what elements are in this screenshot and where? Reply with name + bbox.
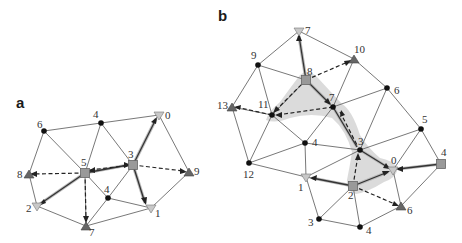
node-dot-icon [255,62,261,68]
node-label: 8 [17,168,23,180]
node-label: 6 [37,118,43,130]
node-square-icon [437,160,446,169]
node-dot-icon [302,140,308,146]
node-triangle-up-icon [349,55,359,63]
node-dot-icon [330,104,336,110]
node-label: 3 [308,216,314,228]
panel-b-mesh-edges [232,31,441,227]
node-label: 4 [312,136,318,148]
node-label: 2 [26,202,32,214]
panel-b-nodes [227,28,446,230]
node-dot-icon [357,224,363,230]
node-label: 5 [422,113,428,125]
node-label: 4 [93,108,99,120]
node-label: 7 [305,24,311,36]
node-label: 6 [394,84,400,96]
node-label: 3 [128,148,134,160]
node-label: 9 [194,165,200,177]
node-label: 1 [155,207,161,219]
node-dot-icon [105,195,111,201]
panel-b-label: b [218,7,227,24]
node-dot-icon [384,85,390,91]
node-label: 0 [391,154,397,166]
panel-a-node-labels: 6 4 0 5 3 8 9 4 2 7 1 [17,108,200,238]
node-label: 9 [251,49,257,61]
node-dot-icon [316,216,322,222]
node-label: 4 [104,183,110,195]
panel-b: b [217,7,447,236]
node-dot-icon [246,160,252,166]
node-label: 5 [81,156,87,168]
panel-a-nodes [24,112,194,230]
node-label: 10 [354,43,366,55]
node-dot-icon [269,112,275,118]
node-label: 1 [298,181,304,193]
panel-a-mesh-edges [29,115,189,226]
node-label: 11 [258,98,269,110]
node-label: 12 [243,168,254,180]
node-label: 3 [358,135,364,147]
node-label: 6 [407,204,413,216]
panel-a: a [16,94,200,238]
node-label: 13 [217,99,229,111]
node-label: 7 [329,91,335,103]
node-label: 8 [307,65,313,77]
node-square-icon [129,161,138,170]
node-label: 2 [348,189,354,201]
node-dot-icon [418,126,424,132]
panel-b-node-labels: 7 9 10 8 6 13 11 7 5 4 3 12 4 0 1 2 6 3 … [217,24,447,236]
node-square-icon [81,169,90,178]
node-dot-icon [98,120,104,126]
node-label: 4 [366,224,372,236]
node-dot-icon [357,147,363,153]
panel-a-label: a [16,94,25,111]
diagram-canvas: a [0,0,462,243]
node-label: 7 [89,226,95,238]
node-triangle-down-icon [294,28,304,36]
node-label: 4 [441,146,447,158]
node-label: 0 [165,109,171,121]
